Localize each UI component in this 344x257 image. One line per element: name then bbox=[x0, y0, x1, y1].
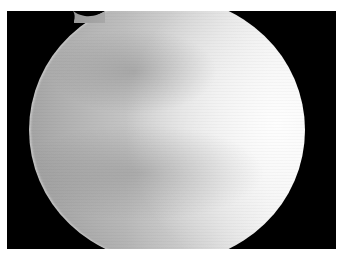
bright-disk bbox=[29, 11, 305, 249]
stem-notch bbox=[71, 11, 105, 23]
photo-frame bbox=[7, 11, 336, 249]
scanline-texture bbox=[29, 11, 305, 249]
